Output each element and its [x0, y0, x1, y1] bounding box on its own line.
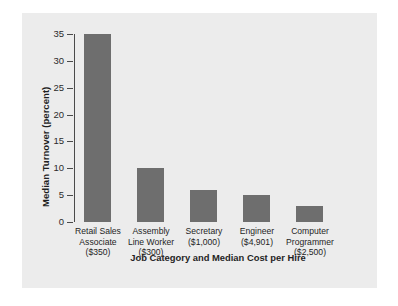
chart-figure: Median Turnover (percent) 0 5 10 15 20 2… — [22, 13, 377, 288]
y-axis-title: Median Turnover (percent) — [40, 47, 52, 207]
bar-engineer — [243, 195, 270, 222]
y-axis-title-holder: Median Turnover (percent) — [40, 37, 54, 207]
y-tick-label-5: 5 — [59, 190, 64, 200]
bar-secretary — [190, 190, 217, 222]
y-axis-line — [74, 34, 75, 222]
y-tick-label-25: 25 — [53, 83, 64, 93]
x-category-line-4-1: Programmer — [267, 237, 353, 248]
bar-assembly-line-worker — [137, 168, 164, 222]
y-tick-label-10: 10 — [53, 164, 64, 174]
x-category-line-4-0: Computer — [267, 226, 353, 237]
plot-area: 0 5 10 15 20 25 30 35 — [74, 34, 362, 222]
y-tick-label-35: 35 — [53, 29, 64, 39]
y-tick-label-20: 20 — [53, 110, 64, 120]
y-tick-label-30: 30 — [53, 56, 64, 66]
bar-retail-sales-associate — [84, 34, 111, 222]
x-axis-title: Job Category and Median Cost per Hire — [74, 252, 362, 263]
y-tick-label-15: 15 — [53, 137, 64, 147]
bar-computer-programmer — [296, 206, 323, 222]
